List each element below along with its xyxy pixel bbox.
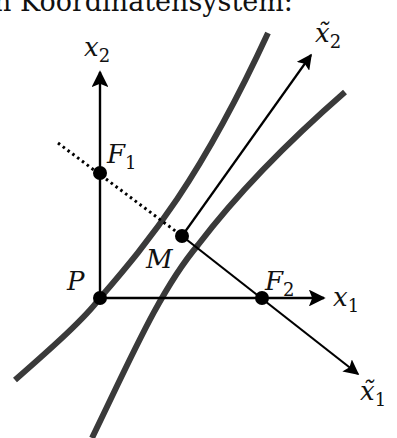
hyperbola-coordinate-diagram: x2 x1 x̃2 x̃1 F1 F2 P M [0,0,397,438]
label-x1-tilde: x̃1 [360,376,386,410]
point-P [93,291,107,305]
label-F2: F2 [264,266,295,300]
label-x2-tilde: x̃2 [315,18,341,52]
label-P: P [66,266,85,296]
point-F1 [93,166,107,180]
label-M: M [145,244,174,274]
point-M [175,229,189,243]
x1-tilde-axis [182,236,358,374]
label-x1: x1 [333,282,359,316]
label-x2: x2 [84,32,110,66]
label-F1: F1 [106,139,137,173]
